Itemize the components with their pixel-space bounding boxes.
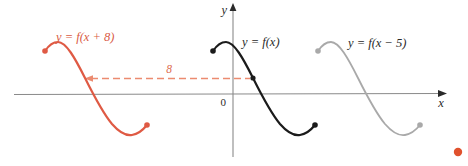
curve-f-original (210, 42, 318, 135)
shift-value-label: 8 (166, 63, 172, 75)
curve-endpoint-dot (144, 122, 150, 128)
origin-label: 0 (221, 96, 227, 108)
curve-path-f-shift-left (45, 42, 147, 135)
figure-canvas: y x 0 8 y = f(x + 8) y = f(x) y = f( (0, 0, 468, 166)
x-axis-label: x (437, 96, 444, 110)
y-axis-arrow (230, 3, 237, 11)
curve-f-shift-right (315, 42, 423, 135)
curve-label-f-shift-left: y = f(x + 8) (54, 30, 115, 44)
function-translation-figure: y x 0 8 y = f(x + 8) y = f(x) y = f( (0, 0, 468, 166)
shift-reference-point-dot (250, 75, 255, 80)
curve-label-f-original: y = f(x) (240, 35, 280, 49)
curve-endpoint-dot (42, 48, 48, 54)
curve-path-f-original (213, 42, 315, 135)
curve-endpoint-dot (417, 122, 423, 128)
curve-f-shift-left (42, 42, 150, 135)
x-axis (14, 94, 440, 95)
curve-path-f-shift-right (318, 42, 420, 135)
curve-endpoint-dot (315, 48, 321, 54)
curve-endpoint-dot (210, 48, 216, 54)
curve-label-f-shift-right: y = f(x − 5) (346, 36, 407, 50)
y-axis-label: y (219, 3, 227, 17)
curve-endpoint-dot (312, 122, 318, 128)
page-marker-dot (454, 148, 462, 156)
